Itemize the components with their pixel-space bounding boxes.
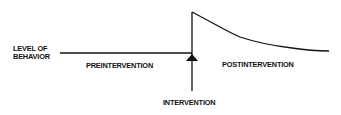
y-axis-label: LEVEL OF BEHAVIOR — [13, 45, 50, 61]
arrow-up-icon — [186, 54, 198, 61]
y-axis-label-line2: BEHAVIOR — [13, 53, 50, 61]
intervention-label: INTERVENTION — [163, 99, 215, 107]
postintervention-curve — [192, 12, 329, 51]
postintervention-label: POSTINTERVENTION — [222, 61, 294, 69]
preintervention-label: PREINTERVENTION — [86, 62, 153, 70]
intervention-diagram: LEVEL OF BEHAVIOR PREINTERVENTION POSTIN… — [0, 0, 341, 115]
